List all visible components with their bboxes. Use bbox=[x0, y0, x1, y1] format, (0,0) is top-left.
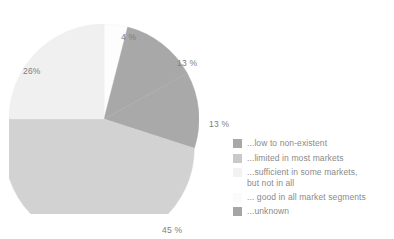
legend-item-label: ...sufficient in some markets, but not i… bbox=[247, 167, 358, 189]
legend-item-limited-in-most-markets[interactable]: ...limited in most markets bbox=[233, 153, 393, 165]
pie-label-low-to-non-existent: 13 % bbox=[177, 59, 197, 68]
legend-item-label: ...low to non-existent bbox=[247, 138, 327, 149]
pie-chart-graphic: 4 % 13 % 13 % 45 % 26% bbox=[9, 24, 199, 214]
legend-swatch-icon bbox=[233, 168, 242, 177]
pie-label-limited-in-most-markets: 13 % bbox=[209, 120, 229, 129]
legend-item-good-in-all-market-segments[interactable]: ... good in all market segments bbox=[233, 192, 393, 204]
legend-item-label: ...unknown bbox=[247, 206, 289, 217]
legend-swatch-icon bbox=[233, 207, 242, 216]
legend-item-low-to-non-existent[interactable]: ...low to non-existent bbox=[233, 138, 393, 150]
pie-label-good-in-all-market-segments: 45 % bbox=[162, 226, 182, 235]
legend-item-sufficient-in-some-markets[interactable]: ...sufficient in some markets, but not i… bbox=[233, 167, 393, 189]
pie-label-sufficient-in-some-markets: 26% bbox=[23, 67, 41, 76]
legend-swatch-icon bbox=[233, 154, 242, 163]
legend-item-unknown[interactable]: ...unknown bbox=[233, 206, 393, 218]
legend-swatch-icon bbox=[233, 193, 242, 202]
legend-item-label: ...limited in most markets bbox=[247, 153, 344, 164]
legend-swatch-icon bbox=[233, 139, 242, 148]
pie-label-unknown: 4 % bbox=[121, 33, 136, 42]
pie-slices-svg bbox=[9, 24, 199, 214]
legend-item-label: ... good in all market segments bbox=[247, 192, 366, 203]
legend: ...low to non-existent ...limited in mos… bbox=[233, 138, 393, 221]
pie-chart-figure: 4 % 13 % 13 % 45 % 26% ...low to non-exi… bbox=[0, 0, 394, 239]
